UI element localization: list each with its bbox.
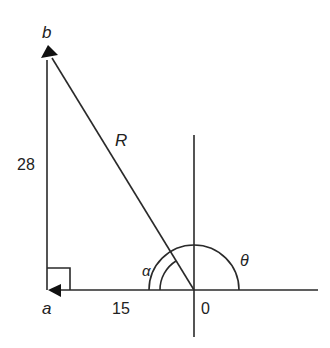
hypotenuse-r-label: R (115, 131, 127, 150)
vector-diagram: b a 28 15 R α θ 0 (0, 0, 330, 348)
arrowhead-b-icon (41, 45, 58, 58)
side-28-label: 28 (17, 156, 35, 173)
hypotenuse-r-line (52, 58, 194, 290)
point-a-label: a (42, 299, 51, 318)
side-15-label: 15 (112, 300, 130, 317)
origin-label: 0 (201, 300, 210, 317)
point-b-label: b (42, 23, 51, 42)
arrowhead-a-icon (48, 284, 61, 297)
angle-theta-label: θ (240, 252, 249, 269)
angle-alpha-label: α (142, 262, 151, 279)
alpha-arc (160, 261, 176, 290)
